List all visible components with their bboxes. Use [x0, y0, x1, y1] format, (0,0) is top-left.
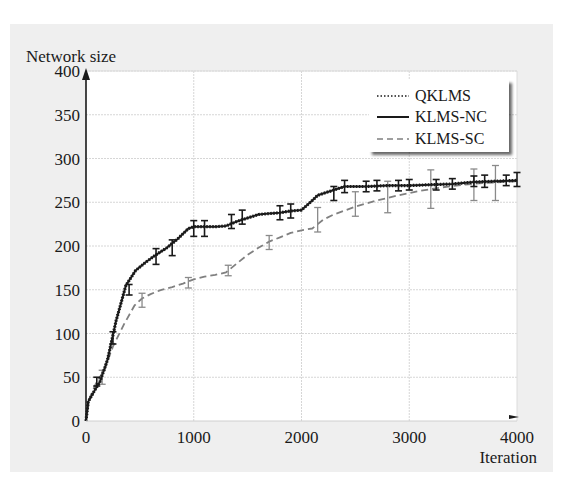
y-tick-label: 0: [72, 412, 81, 431]
legend: QKLMS KLMS-NC KLMS-SC: [369, 80, 509, 152]
line-chart: 0501001502002503003504000100020003000400…: [0, 0, 581, 490]
y-tick-label: 100: [55, 325, 81, 344]
x-tick-label: 2000: [285, 428, 319, 447]
y-tick-label: 300: [55, 150, 81, 169]
y-tick-label: 350: [55, 106, 81, 125]
x-tick-label: 1000: [177, 428, 211, 447]
y-tick-label: 50: [63, 368, 80, 387]
legend-label-klms-sc: KLMS-SC: [415, 130, 484, 147]
x-tick-label: 3000: [392, 428, 426, 447]
x-tick-label: 0: [82, 428, 91, 447]
y-tick-label: 200: [55, 237, 81, 256]
legend-label-qklms: QKLMS: [415, 87, 471, 104]
x-tick-label: 4000: [500, 428, 534, 447]
legend-label-klms-nc: KLMS-NC: [415, 108, 487, 125]
y-tick-label: 250: [55, 193, 81, 212]
y-tick-label: 150: [55, 281, 81, 300]
x-axis-label: Iteration: [479, 448, 537, 467]
y-axis-label: Network size: [26, 47, 116, 66]
